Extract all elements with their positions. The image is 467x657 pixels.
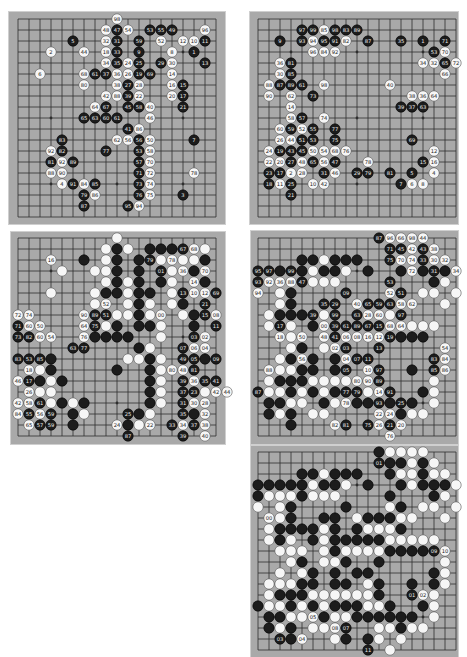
black-stone: 69 xyxy=(407,135,417,145)
black-stone: 89 xyxy=(286,80,296,90)
move-number: 75 xyxy=(332,137,339,143)
black-stone: 01 xyxy=(374,458,384,468)
black-stone: 69 xyxy=(211,288,221,298)
black-stone: 67 xyxy=(363,321,373,331)
move-number: 05 xyxy=(191,356,198,362)
white-stone xyxy=(374,623,384,633)
move-number: 24 xyxy=(266,148,273,154)
black-stone: 83 xyxy=(429,354,439,364)
white-stone xyxy=(90,266,100,276)
black-stone xyxy=(275,612,285,622)
white-stone: 90 xyxy=(363,376,373,386)
white-stone: 96 xyxy=(200,25,210,35)
move-number: 98 xyxy=(409,235,416,241)
move-number: 70 xyxy=(398,257,405,263)
move-number: 69 xyxy=(147,71,154,77)
move-number: 01 xyxy=(376,460,383,466)
black-stone xyxy=(68,409,78,419)
white-stone: 34 xyxy=(418,58,428,68)
white-stone xyxy=(407,623,417,633)
black-stone: 33 xyxy=(418,255,428,265)
white-stone xyxy=(429,535,439,545)
black-stone: 65 xyxy=(79,113,89,123)
white-stone: 72 xyxy=(407,266,417,276)
move-number: 35 xyxy=(321,301,328,307)
move-number: 51 xyxy=(103,312,110,318)
black-stone xyxy=(297,255,307,265)
black-stone xyxy=(330,546,340,556)
white-stone xyxy=(275,502,285,512)
move-number: 81 xyxy=(288,60,295,66)
white-stone xyxy=(297,546,307,556)
white-stone xyxy=(134,420,144,430)
white-stone: 28 xyxy=(363,310,373,320)
white-stone xyxy=(363,601,373,611)
white-stone xyxy=(264,310,274,320)
white-stone xyxy=(440,299,450,309)
black-stone: 09 xyxy=(211,354,221,364)
white-stone xyxy=(145,310,155,320)
white-stone: 8 xyxy=(167,47,177,57)
white-stone xyxy=(297,387,307,397)
move-number: 16 xyxy=(431,159,438,165)
black-stone xyxy=(363,266,373,276)
black-stone: 45 xyxy=(123,102,133,112)
move-number: 13 xyxy=(376,345,383,351)
white-stone: 44 xyxy=(222,387,232,397)
white-stone xyxy=(264,524,274,534)
black-stone xyxy=(134,321,144,331)
black-stone: 53 xyxy=(385,277,395,287)
white-stone: 96 xyxy=(385,233,395,243)
black-stone xyxy=(308,365,318,375)
black-stone: 21 xyxy=(200,299,210,309)
black-stone xyxy=(145,398,155,408)
black-stone xyxy=(297,491,307,501)
move-number: 38 xyxy=(409,93,416,99)
white-stone xyxy=(297,398,307,408)
move-number: 44 xyxy=(224,389,231,395)
move-number: 52 xyxy=(103,301,110,307)
white-stone xyxy=(200,387,210,397)
black-stone xyxy=(407,398,417,408)
move-number: 67 xyxy=(180,246,187,252)
white-stone: 80 xyxy=(79,80,89,90)
white-stone: 84 xyxy=(13,409,23,419)
move-number: 92 xyxy=(266,279,273,285)
white-stone xyxy=(429,502,439,512)
move-number: 47 xyxy=(299,279,306,285)
move-number: 16 xyxy=(48,257,55,263)
move-number: 47 xyxy=(332,159,339,165)
move-number: 68 xyxy=(81,71,88,77)
white-stone xyxy=(286,579,296,589)
black-stone: 59 xyxy=(46,409,56,419)
move-number: 71 xyxy=(15,323,22,329)
white-stone: 04 xyxy=(200,343,210,353)
black-stone xyxy=(112,332,122,342)
move-number: 17 xyxy=(277,170,284,176)
black-stone xyxy=(363,568,373,578)
black-stone xyxy=(308,535,318,545)
move-number: 58 xyxy=(398,301,405,307)
white-stone: 24 xyxy=(264,146,274,156)
white-stone: 92 xyxy=(57,157,67,167)
move-number: 79 xyxy=(81,192,88,198)
move-number: 99 xyxy=(310,27,317,33)
move-number: 65 xyxy=(81,115,88,121)
move-number: 60 xyxy=(103,115,110,121)
white-stone xyxy=(363,546,373,556)
white-stone: 54 xyxy=(46,332,56,342)
black-stone: 73 xyxy=(13,332,23,342)
move-number: 54 xyxy=(48,334,55,340)
black-stone xyxy=(123,420,133,430)
black-stone xyxy=(286,524,296,534)
white-stone xyxy=(156,332,166,342)
black-stone: 7 xyxy=(189,135,199,145)
move-number: 98 xyxy=(332,27,339,33)
black-stone: 5 xyxy=(68,36,78,46)
star-point xyxy=(50,183,53,186)
move-number: 07 xyxy=(343,625,350,631)
move-number: 76 xyxy=(136,192,143,198)
white-stone: 88 xyxy=(264,80,274,90)
white-stone xyxy=(341,376,351,386)
move-number: 87 xyxy=(365,38,372,44)
